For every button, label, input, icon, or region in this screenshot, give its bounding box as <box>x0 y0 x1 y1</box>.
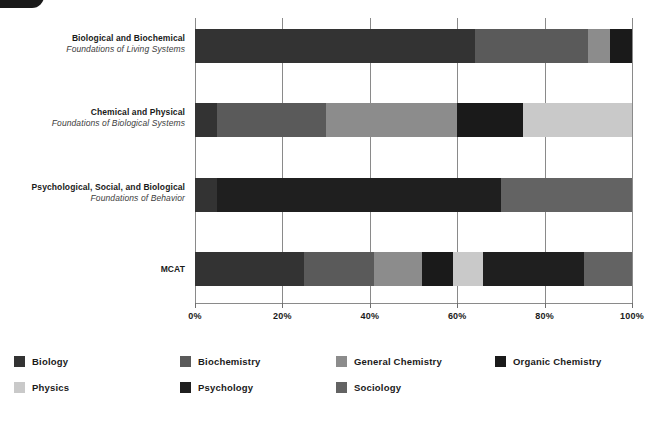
x-tick-label-60: 60% <box>448 311 467 321</box>
legend-label: Biology <box>32 356 68 367</box>
bar-segment-biochemistry <box>304 252 374 286</box>
legend-swatch-icon <box>14 356 25 367</box>
chart-row: Chemical and PhysicalFoundations of Biol… <box>0 103 661 137</box>
chart-row: Biological and BiochemicalFoundations of… <box>0 29 661 63</box>
x-tick-80 <box>545 303 546 308</box>
x-tick-label-0: 0% <box>188 311 201 321</box>
legend-item-organic-chemistry[interactable]: Organic Chemistry <box>495 356 601 367</box>
row-label: MCAT <box>0 264 185 275</box>
legend-label: Sociology <box>354 382 401 393</box>
row-label: Psychological, Social, and BiologicalFou… <box>0 182 185 204</box>
legend-item-sociology[interactable]: Sociology <box>336 382 401 393</box>
bar-segment-organic-chemistry <box>422 252 453 286</box>
bar-segment-sociology <box>501 178 632 212</box>
legend-label: Psychology <box>198 382 253 393</box>
row-label-subtitle: Foundations of Biological Systems <box>0 118 185 129</box>
bar-segment-biology <box>195 29 475 63</box>
x-tick-40 <box>370 303 371 308</box>
row-label-subtitle: Foundations of Behavior <box>0 193 185 204</box>
stacked-bar <box>195 252 632 286</box>
row-label-title: Psychological, Social, and Biological <box>0 182 185 193</box>
legend-label: General Chemistry <box>354 356 442 367</box>
chart-row: Psychological, Social, and BiologicalFou… <box>0 178 661 212</box>
legend-item-physics[interactable]: Physics <box>14 382 69 393</box>
legend-item-biology[interactable]: Biology <box>14 356 68 367</box>
legend-label: Physics <box>32 382 69 393</box>
stacked-bar <box>195 29 632 63</box>
legend-swatch-icon <box>14 382 25 393</box>
legend-swatch-icon <box>180 356 191 367</box>
bar-segment-biology <box>195 103 217 137</box>
bar-segment-biochemistry <box>217 103 326 137</box>
bar-segment-psychology <box>483 252 584 286</box>
x-tick-label-40: 40% <box>360 311 379 321</box>
bar-segment-biology <box>195 252 304 286</box>
stacked-bar <box>195 178 632 212</box>
x-tick-20 <box>282 303 283 308</box>
x-tick-label-80: 80% <box>535 311 554 321</box>
x-tick-100 <box>632 303 633 308</box>
row-label-title: MCAT <box>0 264 185 275</box>
x-tick-label-20: 20% <box>273 311 292 321</box>
x-tick-label-100: 100% <box>620 311 644 321</box>
chart-legend: BiologyBiochemistryGeneral ChemistryOrga… <box>14 356 654 406</box>
bar-segment-sociology <box>584 252 632 286</box>
legend-swatch-icon <box>180 382 191 393</box>
legend-swatch-icon <box>495 356 506 367</box>
legend-label: Organic Chemistry <box>513 356 601 367</box>
row-label: Biological and BiochemicalFoundations of… <box>0 33 185 55</box>
stacked-bar <box>195 103 632 137</box>
row-label-title: Chemical and Physical <box>0 107 185 118</box>
legend-item-general-chemistry[interactable]: General Chemistry <box>336 356 442 367</box>
legend-item-psychology[interactable]: Psychology <box>180 382 253 393</box>
bar-segment-biology <box>195 178 217 212</box>
legend-swatch-icon <box>336 382 347 393</box>
bar-segment-biochemistry <box>475 29 589 63</box>
row-label-subtitle: Foundations of Living Systems <box>0 44 185 55</box>
x-axis-line <box>195 303 632 304</box>
x-tick-0 <box>195 303 196 308</box>
bar-segment-general-chemistry <box>374 252 422 286</box>
row-label-title: Biological and Biochemical <box>0 33 185 44</box>
stacked-bar-chart: 0%20%40%60%80%100% Biological and Bioche… <box>0 0 661 340</box>
legend-swatch-icon <box>336 356 347 367</box>
bar-segment-organic-chemistry <box>610 29 632 63</box>
bar-segment-general-chemistry <box>326 103 457 137</box>
bar-segment-general-chemistry <box>588 29 610 63</box>
legend-item-biochemistry[interactable]: Biochemistry <box>180 356 261 367</box>
legend-label: Biochemistry <box>198 356 261 367</box>
row-label: Chemical and PhysicalFoundations of Biol… <box>0 107 185 129</box>
x-tick-60 <box>457 303 458 308</box>
bar-segment-psychology <box>217 178 501 212</box>
bar-segment-physics <box>453 252 484 286</box>
chart-row: MCAT <box>0 252 661 286</box>
bar-segment-physics <box>523 103 632 137</box>
bar-segment-organic-chemistry <box>457 103 523 137</box>
